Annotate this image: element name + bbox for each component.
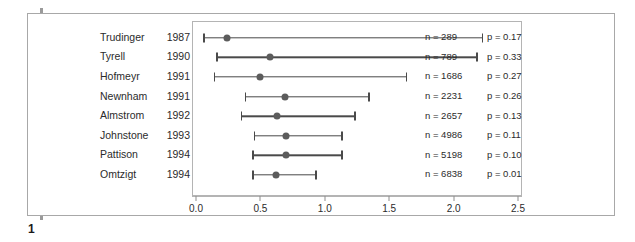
x-axis-tick [260,196,261,201]
study-year: 1993 [156,129,190,141]
effect-estimate-marker [223,34,230,41]
statistics-column: n = 289p = 0.17n = 789p = 0.33n = 1686p … [425,27,555,184]
effect-estimate-marker [257,73,264,80]
x-axis-line [192,196,522,197]
p-value: p = 0.11 [487,129,545,140]
study-year: 1994 [156,148,190,160]
confidence-interval-line [252,155,341,156]
study-author: Johnstone [100,129,156,141]
confidence-interval-line [241,115,354,116]
ci-upper-cap [406,72,407,81]
sample-size-value: n = 6838 [425,168,487,179]
study-label-row: Johnstone1993 [100,125,190,145]
x-axis: 0.00.51.01.52.02.5 [192,196,522,220]
study-year: 1991 [156,90,190,102]
statistics-row: n = 289p = 0.17 [425,27,555,47]
p-value: p = 0.27 [487,70,545,81]
x-axis-tick [389,196,390,201]
study-year: 1991 [156,70,190,82]
x-axis-tick [196,196,197,201]
study-year: 1987 [156,31,190,43]
ci-lower-cap [203,33,204,42]
forest-plot-figure: Trudinger1987Tyrell1990Hofmeyr1991Newnha… [0,0,635,242]
x-axis-tick [324,196,325,201]
study-author: Pattison [100,148,156,160]
ci-upper-cap [341,151,342,160]
study-year: 1992 [156,109,190,121]
statistics-row: n = 789p = 0.33 [425,47,555,67]
statistics-row: n = 5198p = 0.10 [425,145,555,165]
statistics-row: n = 6838p = 0.01 [425,164,555,184]
study-author: Almstrom [100,109,156,121]
effect-estimate-marker [282,152,289,159]
ci-lower-cap [254,131,255,140]
study-label-row: Almstrom1992 [100,105,190,125]
effect-estimate-marker [267,54,274,61]
statistics-row: n = 4986p = 0.11 [425,125,555,145]
statistics-row: n = 2657p = 0.13 [425,105,555,125]
x-axis-tick-label: 1.0 [318,203,332,214]
figure-number: 1 [28,222,35,236]
p-value: p = 0.26 [487,90,545,101]
study-label-column: Trudinger1987Tyrell1990Hofmeyr1991Newnha… [100,27,190,184]
p-value: p = 0.17 [487,31,545,42]
ci-lower-cap [252,170,253,179]
p-value: p = 0.13 [487,110,545,121]
confidence-interval-line [252,174,315,175]
sample-size-value: n = 5198 [425,149,487,160]
x-axis-tick [453,196,454,201]
x-axis-tick-label: 1.5 [382,203,396,214]
sample-size-value: n = 789 [425,51,487,62]
confidence-interval-line [214,76,406,77]
confidence-interval-line [245,96,369,97]
study-author: Trudinger [100,31,156,43]
ci-lower-cap [216,53,217,62]
study-author: Newnham [100,90,156,102]
study-label-row: Hofmeyr1991 [100,66,190,86]
study-year: 1994 [156,168,190,180]
statistics-row: n = 2231p = 0.26 [425,86,555,106]
ci-lower-cap [252,151,253,160]
ci-upper-cap [315,170,316,179]
sample-size-value: n = 289 [425,31,487,42]
ci-upper-cap [354,112,355,121]
effect-estimate-marker [272,171,279,178]
sample-size-value: n = 2231 [425,90,487,101]
x-axis-tick-label: 2.0 [447,203,461,214]
study-year: 1990 [156,50,190,62]
study-label-row: Omtzigt1994 [100,164,190,184]
ci-upper-cap [341,131,342,140]
effect-estimate-marker [282,132,289,139]
study-author: Omtzigt [100,168,156,180]
sample-size-value: n = 1686 [425,70,487,81]
ci-lower-cap [245,92,246,101]
ci-lower-cap [214,72,215,81]
study-label-row: Tyrell1990 [100,47,190,67]
p-value: p = 0.10 [487,149,545,160]
x-axis-tick [518,196,519,201]
sample-size-value: n = 2657 [425,110,487,121]
sample-size-value: n = 4986 [425,129,487,140]
study-author: Tyrell [100,50,156,62]
study-label-row: Trudinger1987 [100,27,190,47]
ci-lower-cap [241,112,242,121]
ci-upper-cap [368,92,369,101]
study-author: Hofmeyr [100,70,156,82]
x-axis-tick-label: 2.5 [511,203,525,214]
effect-estimate-marker [273,113,280,120]
p-value: p = 0.01 [487,168,545,179]
p-value: p = 0.33 [487,51,545,62]
study-label-row: Pattison1994 [100,145,190,165]
study-label-row: Newnham1991 [100,86,190,106]
confidence-interval-line [254,135,342,136]
statistics-row: n = 1686p = 0.27 [425,66,555,86]
effect-estimate-marker [281,93,288,100]
x-axis-tick-label: 0.5 [253,203,267,214]
x-axis-tick-label: 0.0 [189,203,203,214]
